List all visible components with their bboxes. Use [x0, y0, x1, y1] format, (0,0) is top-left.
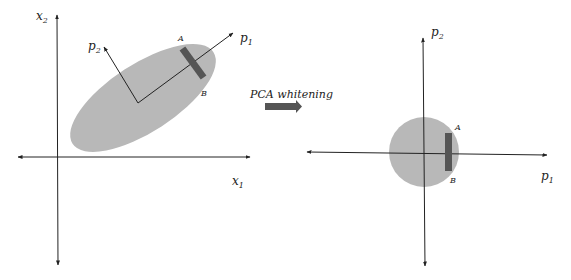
p2-axis-label-right: p2	[431, 25, 444, 41]
left-panel: x2 x1 p1 p2 A B	[18, 9, 253, 265]
p1-axis-label-right: p1	[541, 169, 554, 185]
transform-label: PCA whitening	[249, 88, 333, 101]
p1-axis-label: p1	[240, 31, 253, 47]
pca-whitening-diagram: x2 x1 p1 p2 A B PCA whitening p2 p1 A B	[0, 0, 571, 280]
data-ellipse	[54, 24, 232, 173]
x2-axis-label: x2	[36, 9, 48, 25]
right-arrow-icon	[265, 100, 302, 113]
right-panel: p2 p1 A B	[307, 25, 554, 266]
point-a-label: A	[177, 34, 184, 43]
transform-arrow-group: PCA whitening	[249, 88, 333, 113]
x1-axis-label: x1	[232, 174, 244, 190]
p2-axis-label: p2	[88, 39, 101, 55]
x2-axis	[57, 15, 58, 265]
point-b-label-right: B	[449, 176, 456, 185]
projection-band-right	[445, 133, 452, 171]
point-b-label: B	[200, 89, 207, 98]
point-a-label-right: A	[454, 123, 461, 132]
